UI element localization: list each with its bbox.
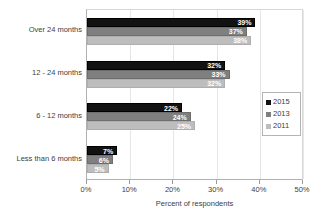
- bar-row: 38%: [87, 36, 251, 45]
- axis-tick: [259, 180, 260, 184]
- gridline: [260, 10, 261, 179]
- axis-tick-label: 30%: [208, 185, 223, 194]
- axis-tick-label: 0%: [81, 185, 92, 194]
- legend-swatch-icon: [266, 112, 271, 117]
- bar-2011-2: 32%: [87, 79, 225, 88]
- bar-row: 24%: [87, 112, 191, 121]
- bar-2013-2: 33%: [87, 70, 230, 79]
- bar-2013-1: 37%: [87, 27, 247, 36]
- bar-row: 25%: [87, 121, 195, 130]
- bar-2013-3: 24%: [87, 112, 191, 121]
- x-axis-title: Percent of respondents: [86, 199, 303, 208]
- legend-label: 2015: [273, 98, 290, 106]
- bar-chart: 39%37%38%32%33%32%22%24%25%7%6%5% Over 2…: [0, 0, 326, 217]
- bar-2015-1: 39%: [87, 18, 255, 27]
- bar-value-label: 37%: [229, 28, 243, 35]
- axis-tick-label: 50%: [294, 185, 309, 194]
- bar-value-label: 32%: [207, 62, 221, 69]
- bar-2011-1: 38%: [87, 36, 251, 45]
- axis-tick: [172, 180, 173, 184]
- axis-tick: [86, 180, 87, 184]
- legend-label: 2013: [273, 110, 290, 118]
- legend-item-2011[interactable]: 2011: [263, 120, 300, 132]
- legend-item-2013[interactable]: 2013: [263, 108, 300, 120]
- legend-item-2015[interactable]: 2015: [263, 96, 300, 108]
- bar-value-label: 39%: [237, 19, 251, 26]
- bar-row: 32%: [87, 61, 225, 70]
- category-label: Less than 6 months: [0, 154, 82, 163]
- bar-row: 37%: [87, 27, 247, 36]
- bar-row: 22%: [87, 103, 182, 112]
- bar-2011-4: 5%: [87, 164, 109, 173]
- axis-tick-label: 20%: [165, 185, 180, 194]
- bar-2013-4: 6%: [87, 155, 113, 164]
- bar-row: 5%: [87, 164, 109, 173]
- bar-value-label: 5%: [94, 165, 104, 172]
- chart-legend: 201520132011: [262, 92, 301, 136]
- category-label: Over 24 months: [0, 25, 82, 34]
- axis-tick: [216, 180, 217, 184]
- axis-tick: [302, 180, 303, 184]
- bar-2015-2: 32%: [87, 61, 225, 70]
- axis-tick: [129, 180, 130, 184]
- bar-value-label: 6%: [99, 156, 109, 163]
- legend-label: 2011: [273, 122, 289, 130]
- bar-row: 33%: [87, 70, 230, 79]
- bar-row: 7%: [87, 146, 117, 155]
- bar-value-label: 7%: [103, 147, 113, 154]
- axis-tick-label: 40%: [251, 185, 266, 194]
- bar-row: 39%: [87, 18, 255, 27]
- bar-value-label: 32%: [207, 80, 221, 87]
- bar-row: 6%: [87, 155, 113, 164]
- bar-value-label: 24%: [173, 113, 187, 120]
- category-label: 6 - 12 months: [0, 111, 82, 120]
- bar-row: 32%: [87, 79, 225, 88]
- bar-value-label: 33%: [212, 71, 226, 78]
- bar-value-label: 38%: [233, 37, 247, 44]
- axis-tick-label: 10%: [122, 185, 137, 194]
- bar-2011-3: 25%: [87, 121, 195, 130]
- legend-swatch-icon: [266, 124, 271, 129]
- gridline: [303, 10, 304, 179]
- bar-2015-3: 22%: [87, 103, 182, 112]
- bar-value-label: 22%: [164, 104, 178, 111]
- category-label: 12 - 24 months: [0, 68, 82, 77]
- bar-2015-4: 7%: [87, 146, 117, 155]
- legend-swatch-icon: [266, 100, 271, 105]
- bar-value-label: 25%: [177, 122, 191, 129]
